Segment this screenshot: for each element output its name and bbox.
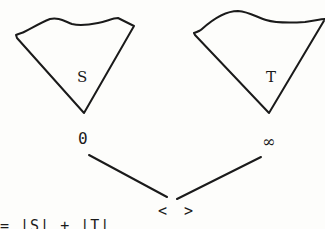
formula-text: = |S| + |T| (0, 219, 110, 229)
join-node-label: < > (158, 204, 197, 219)
tree-t-root-label: ∞ (262, 134, 275, 150)
diagram-lines (0, 0, 325, 229)
tree-s-outline (16, 18, 134, 113)
tree-t-outline (194, 11, 325, 113)
tree-s-label: S (77, 70, 87, 85)
edge-t-to-join (177, 157, 261, 199)
tree-t-label: T (266, 70, 276, 85)
tree-join-diagram: S T 0 ∞ < > = |S| + |T| (0, 0, 325, 229)
edge-s-to-join (89, 155, 167, 197)
tree-s-root-label: 0 (78, 131, 88, 147)
